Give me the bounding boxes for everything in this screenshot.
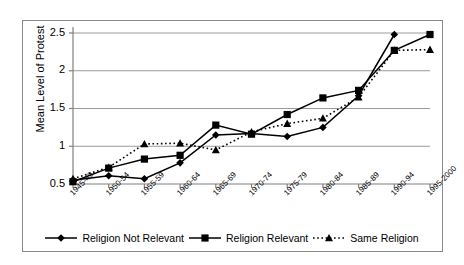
y-tick-label: 1.5 — [37, 101, 65, 113]
data-point-marker — [426, 46, 434, 53]
data-point-marker — [426, 31, 433, 38]
data-point-marker — [355, 93, 363, 100]
data-point-marker — [177, 152, 184, 159]
series-line — [73, 50, 430, 179]
data-point-marker — [176, 139, 184, 146]
data-point-marker — [141, 155, 148, 162]
legend-label: Same Religion — [350, 232, 418, 244]
chart-figure: Mean Level of Protest 0.511.522.5 1945-4… — [22, 20, 443, 252]
legend-item[interactable]: Same Religion — [312, 232, 422, 244]
legend-label: Religion Not Relevant — [82, 232, 184, 244]
legend-item[interactable]: Religion Relevant — [188, 232, 312, 244]
legend-marker-square-icon — [188, 232, 222, 244]
data-point-marker — [284, 111, 291, 118]
series-line — [73, 35, 394, 181]
legend-item[interactable]: Religion Not Relevant — [44, 232, 188, 244]
legend-marker-triangle-icon — [312, 232, 346, 244]
data-point-marker — [283, 133, 291, 141]
y-tick-label: 2 — [37, 63, 65, 75]
legend-label: Religion Relevant — [226, 232, 308, 244]
data-point-marker — [212, 122, 219, 129]
y-tick-label: 0.5 — [37, 177, 65, 189]
y-tick-label: 2.5 — [37, 26, 65, 38]
chart-legend: Religion Not RelevantReligion RelevantSa… — [23, 225, 444, 251]
plot-area — [23, 21, 444, 253]
data-point-marker — [319, 94, 326, 101]
data-point-marker — [319, 114, 327, 121]
data-point-marker — [105, 172, 113, 180]
data-point-marker — [391, 31, 399, 39]
data-point-marker — [212, 146, 220, 153]
y-tick-label: 1 — [37, 139, 65, 151]
legend-marker-diamond-icon — [44, 232, 78, 244]
data-point-marker — [140, 140, 148, 147]
